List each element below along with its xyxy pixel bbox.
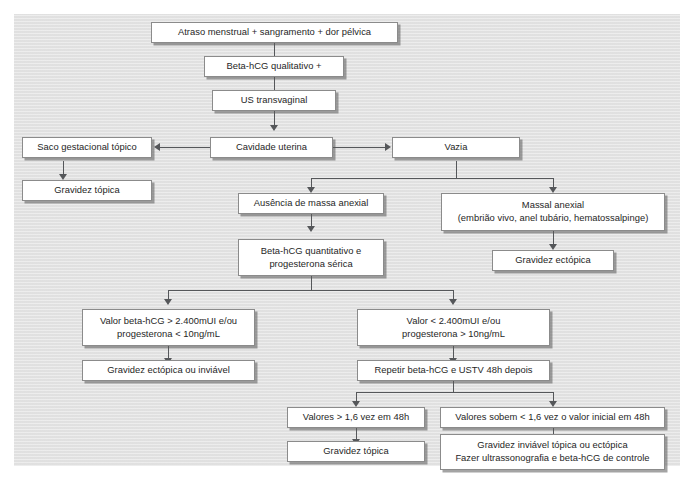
flowchart-panel: Atraso menstrual + sangramento + dor pél… [14,14,680,466]
node-gravidez-inviavel-bottom[interactable]: Gravidez inviável tópica ou ectópica Faz… [440,434,665,470]
node-valor-hcg-alto[interactable]: Valor beta-hCG > 2.400mUI e/ou progester… [82,309,255,346]
node-valor-hcg-baixo[interactable]: Valor < 2.400mUI e/ou progesterona > 10n… [357,309,550,346]
arrowhead-n8-n10 [307,226,315,232]
arrowhead-n10-n12 [164,299,172,305]
connector-n4-n6 [160,147,210,148]
connector-n5-bus [311,178,553,179]
node-gravidez-topica-bottom[interactable]: Gravidez tópica [287,441,425,462]
node-gravidez-ectopica-right[interactable]: Gravidez ectópica [492,250,614,271]
node-gravidez-topica-left[interactable]: Gravidez tópica [22,180,152,201]
connector-n10-bus [168,290,454,291]
node-vazia[interactable]: Vazia [392,137,520,158]
node-us-transvaginal[interactable]: US transvaginal [212,90,336,111]
arrowhead-n3-n4 [270,125,278,131]
connector-n5-stem [456,161,457,178]
connector-n15-bus [356,392,553,393]
node-valores-sobem-menor-1-6[interactable]: Valores sobem < 1,6 vez o valor inicial … [440,407,665,428]
node-beta-hcg-quantitativo[interactable]: Beta-hCG quantitativo e progesterona sér… [238,239,384,276]
node-cavidade-uterina[interactable]: Cavidade uterina [210,137,333,158]
flowchart-page: Atraso menstrual + sangramento + dor pél… [0,0,688,484]
node-valores-maior-1-6[interactable]: Valores > 1,6 vez em 48h [287,407,425,428]
arrowhead-n4-n5 [385,143,391,151]
node-repetir-beta-hcg[interactable]: Repetir beta-hCG e USTV 48h depois [357,360,550,381]
node-gravidez-ectopica-ou-inviavel[interactable]: Gravidez ectópica ou inviável [82,360,255,381]
connector-n10-stem [311,276,312,290]
connector-n15-stem [453,380,454,392]
node-atraso-menstrual[interactable]: Atraso menstrual + sangramento + dor pél… [151,22,398,43]
node-massa-anexial[interactable]: Massal anexial (embrião vivo, anel tubár… [441,193,665,231]
arrowhead-n10-n13 [449,299,457,305]
node-ausencia-massa-anexial[interactable]: Ausência de massa anexial [238,193,384,214]
arrowhead-n4-n6 [154,143,160,151]
node-beta-hcg-qualitativo[interactable]: Beta-hCG qualitativo + [204,56,344,77]
node-saco-gestacional-topico[interactable]: Saco gestacional tópico [22,137,152,158]
connector-n4-n5 [333,147,386,148]
